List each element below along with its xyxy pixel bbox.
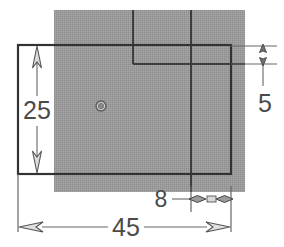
hatched-body-rectangle bbox=[54, 10, 245, 192]
dimension-height-25: 25 bbox=[23, 46, 51, 173]
part-body-group bbox=[54, 10, 245, 192]
dim-5-label: 5 bbox=[258, 89, 272, 117]
center-hole-group bbox=[96, 101, 106, 111]
dim-45-arrow-right bbox=[206, 222, 230, 232]
dim-5-arrow-down bbox=[260, 44, 267, 53]
drawing-svg: 25 5 8 45 bbox=[0, 0, 284, 247]
dim-8-label: 8 bbox=[155, 186, 168, 212]
dim-45-label: 45 bbox=[112, 213, 140, 241]
dim-25-label: 25 bbox=[23, 96, 51, 124]
dim-8-center-marker bbox=[207, 196, 216, 202]
engineering-drawing-canvas: 25 5 8 45 bbox=[0, 0, 284, 247]
dim-45-arrow-left bbox=[19, 222, 43, 232]
center-hole-inner-circle bbox=[98, 103, 103, 108]
dim-5-arrow-up bbox=[260, 58, 267, 67]
